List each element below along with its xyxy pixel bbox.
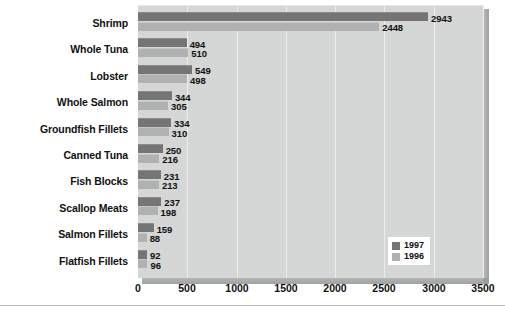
value-axis: 0500100015002000250030003500 bbox=[138, 282, 489, 300]
category-axis-labels: ShrimpWhole TunaLobsterWhole SalmonGroun… bbox=[0, 5, 133, 278]
bar-highlight bbox=[138, 233, 147, 234]
bar-highlight bbox=[138, 65, 192, 66]
bar-value-label: 198 bbox=[161, 207, 177, 218]
legend-label: 1996 bbox=[404, 252, 424, 261]
bar-highlight bbox=[138, 154, 159, 155]
plot-area: 2943244849451054949834430533431025021623… bbox=[138, 5, 483, 278]
bar-value-label: 2448 bbox=[382, 22, 403, 33]
legend-item: 1996 bbox=[392, 251, 424, 262]
bar-1997 bbox=[138, 118, 171, 127]
bar-highlight bbox=[138, 180, 159, 181]
bar-highlight bbox=[138, 197, 161, 198]
bar-1997 bbox=[138, 223, 154, 232]
gridline bbox=[384, 5, 385, 278]
bar-1996 bbox=[138, 206, 158, 215]
bar-value-label: 88 bbox=[150, 233, 160, 244]
bar-1997 bbox=[138, 38, 187, 47]
bar-value-label: 305 bbox=[171, 101, 187, 112]
bar-highlight bbox=[138, 74, 187, 75]
footer-divider bbox=[0, 305, 505, 306]
x-axis-tick-label: 3000 bbox=[422, 282, 445, 294]
bar-highlight bbox=[138, 170, 161, 171]
bar-1997 bbox=[138, 170, 161, 179]
bar-highlight bbox=[138, 22, 379, 23]
bar-highlight bbox=[138, 223, 154, 224]
bar-value-label: 2943 bbox=[431, 13, 452, 24]
legend: 19971996 bbox=[388, 237, 430, 265]
bar-1996 bbox=[138, 74, 187, 83]
bar-highlight bbox=[138, 38, 187, 39]
legend-label: 1997 bbox=[404, 241, 424, 250]
gridline bbox=[483, 5, 484, 278]
category-label: Whole Tuna bbox=[70, 43, 128, 55]
bar-highlight bbox=[138, 250, 147, 251]
x-axis-tick-label: 3500 bbox=[471, 282, 494, 294]
bar-highlight bbox=[138, 259, 147, 260]
bar-value-label: 510 bbox=[191, 48, 207, 59]
x-axis-tick-label: 1500 bbox=[274, 282, 297, 294]
gridline bbox=[237, 5, 238, 278]
category-label: Flatfish Fillets bbox=[59, 255, 128, 267]
bar-1997 bbox=[138, 197, 161, 206]
bar-value-label: 213 bbox=[162, 180, 178, 191]
bar-1996 bbox=[138, 101, 168, 110]
gridline bbox=[335, 5, 336, 278]
legend-swatch bbox=[392, 253, 400, 261]
gridline bbox=[434, 5, 435, 278]
category-label: Groundfish Fillets bbox=[40, 123, 128, 135]
x-axis-tick-label: 2000 bbox=[323, 282, 346, 294]
bar-highlight bbox=[138, 206, 158, 207]
bar-value-label: 216 bbox=[162, 154, 178, 165]
bar-1996 bbox=[138, 259, 147, 268]
bar-value-label: 498 bbox=[190, 75, 206, 86]
category-label: Shrimp bbox=[92, 17, 128, 29]
bar-1997 bbox=[138, 144, 163, 153]
bar-1997 bbox=[138, 65, 192, 74]
bar-1996 bbox=[138, 180, 159, 189]
bar-highlight bbox=[138, 144, 163, 145]
x-axis-tick-label: 500 bbox=[178, 282, 196, 294]
bar-chart: ShrimpWhole TunaLobsterWhole SalmonGroun… bbox=[0, 0, 505, 319]
category-label: Salmon Fillets bbox=[58, 228, 128, 240]
legend-swatch bbox=[392, 242, 400, 250]
bar-1997 bbox=[138, 91, 172, 100]
plot-top-edge bbox=[138, 5, 483, 6]
bar-1996 bbox=[138, 48, 188, 57]
category-label: Fish Blocks bbox=[70, 175, 128, 187]
category-label: Lobster bbox=[90, 70, 128, 82]
bar-value-label: 96 bbox=[150, 260, 160, 271]
bar-highlight bbox=[138, 91, 172, 92]
x-axis-tick-label: 2500 bbox=[372, 282, 395, 294]
bar-1996 bbox=[138, 233, 147, 242]
bar-1996 bbox=[138, 22, 379, 31]
bar-1996 bbox=[138, 154, 159, 163]
category-label: Canned Tuna bbox=[63, 149, 128, 161]
bar-highlight bbox=[138, 12, 428, 13]
bar-value-label: 310 bbox=[172, 128, 188, 139]
x-axis-tick-label: 0 bbox=[135, 282, 141, 294]
bar-1997 bbox=[138, 12, 428, 21]
gridline bbox=[187, 5, 188, 278]
gridline bbox=[286, 5, 287, 278]
bar-highlight bbox=[138, 101, 168, 102]
category-label: Whole Salmon bbox=[57, 96, 128, 108]
bar-highlight bbox=[138, 127, 169, 128]
bar-1996 bbox=[138, 127, 169, 136]
bar-highlight bbox=[138, 48, 188, 49]
bar-1997 bbox=[138, 250, 147, 259]
bar-highlight bbox=[138, 118, 171, 119]
x-axis-tick-label: 1000 bbox=[225, 282, 248, 294]
category-label: Scallop Meats bbox=[59, 202, 128, 214]
legend-item: 1997 bbox=[392, 240, 424, 251]
